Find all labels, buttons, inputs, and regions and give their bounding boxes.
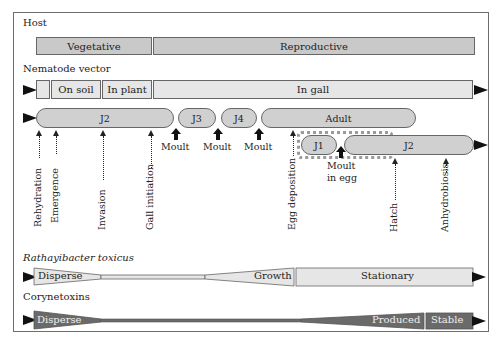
toxins-band [0, 0, 504, 357]
toxins-end-arrow-icon [472, 316, 486, 326]
toxins-phase-produced: Produced [372, 314, 420, 325]
toxins-phase-disperse: Disperse [37, 314, 82, 325]
toxins-phase-stable: Stable [431, 314, 463, 325]
